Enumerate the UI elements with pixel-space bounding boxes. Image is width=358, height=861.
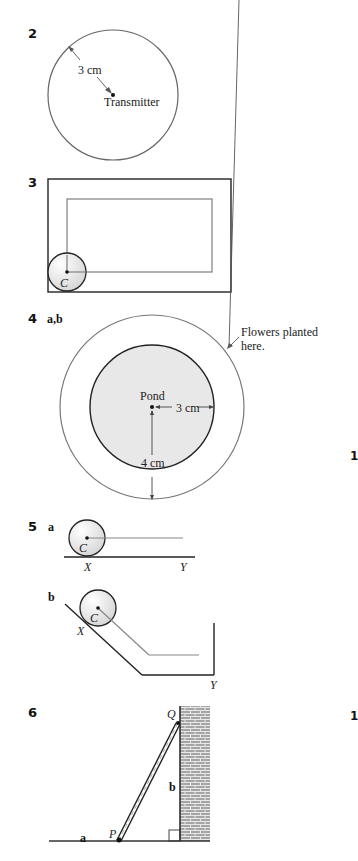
circle-center-label: C [60,276,68,291]
q5a-y-label: Y [180,560,187,575]
question-6-number: 6 [28,705,37,720]
question-5b-part: b [48,590,55,605]
question-5-number: 5 [28,519,37,534]
question-5a-part: a [48,520,54,535]
flowers-annotation-line2: here. [241,339,265,354]
question-3-number: 3 [28,175,37,190]
edge-fragment-1: 1 [350,449,358,463]
side-a-label: a [80,831,86,846]
ladder-bottom-label: P [109,827,116,842]
flower-gap-label: 4 cm [141,456,165,471]
rectangle-path-diagram [48,179,231,292]
q5b-y-label: Y [210,678,217,693]
edge-fragment-2: 1 [350,709,358,723]
side-b-label: b [169,780,176,795]
ladder-top-label: Q [167,707,176,722]
transmitter-label: Transmitter [104,95,160,110]
ladder-wall-diagram [49,706,210,843]
rolling-circle-diagram-b [65,590,214,675]
radius-label: 3 cm [78,63,102,78]
flowers-annotation-line1: Flowers planted [241,325,318,340]
question-4-parts: a,b [47,312,63,327]
q5b-center-label: C [90,611,98,626]
pond-label: Pond [140,389,165,404]
question-4-number: 4 [28,311,37,326]
q5b-x-label: X [77,624,84,639]
pond-radius-label: 3 cm [176,401,200,416]
q5a-x-label: X [84,560,91,575]
q5a-center-label: C [79,541,87,556]
